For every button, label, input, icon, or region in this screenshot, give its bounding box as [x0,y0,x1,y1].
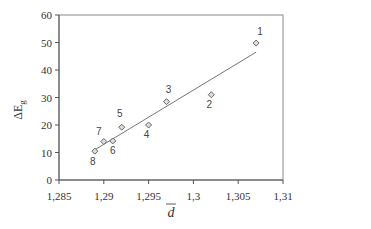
data-point-label: 6 [110,145,116,156]
data-point-label: 3 [166,84,172,95]
plot-area: 01020304050601,2851,291,2951,31,3051,311… [41,9,293,202]
x-tick-label: 1,305 [226,190,251,202]
y-tick-label: 50 [41,37,53,49]
scatter-chart: 01020304050601,2851,291,2951,31,3051,311… [0,0,371,229]
data-point-marker [110,138,116,144]
x-tick-label: 1,31 [273,190,292,202]
svg-text:d: d [168,205,176,220]
data-point-marker [146,122,152,128]
y-tick-label: 60 [41,9,53,21]
y-tick-label: 20 [41,119,53,131]
x-axis-title: d [166,204,176,220]
y-tick-label: 0 [47,174,53,186]
data-point-marker [101,139,107,145]
y-tick-label: 40 [41,64,53,76]
data-point-marker [164,99,170,105]
data-point-marker [253,40,259,46]
data-point-label: 2 [207,99,213,110]
data-point-marker [208,92,214,98]
data-point-label: 5 [117,108,123,119]
data-point-label: 1 [257,26,263,37]
data-point-marker [92,148,98,154]
x-tick-label: 1,285 [47,190,72,202]
y-axis-title: ΔEg [11,100,27,120]
y-tick-label: 30 [41,92,53,104]
data-point-label: 4 [144,129,150,140]
data-point-marker [119,124,125,130]
trendline [95,52,256,150]
x-tick-label: 1,29 [94,190,114,202]
x-tick-label: 1,3 [187,190,201,202]
x-tick-label: 1,295 [136,190,161,202]
data-point-label: 7 [96,126,102,137]
data-point-label: 8 [90,156,96,167]
y-tick-label: 10 [41,147,53,159]
